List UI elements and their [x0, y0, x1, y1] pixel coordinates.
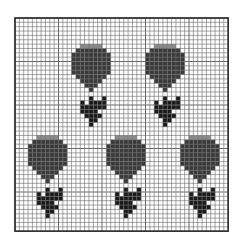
bloom-tip-stitch — [202, 135, 206, 139]
bloom-stitch — [141, 162, 145, 166]
stem-stitch — [93, 118, 97, 122]
bloom-stitch — [176, 53, 180, 57]
bloom-stitch — [93, 70, 97, 74]
bloom-stitch — [132, 149, 136, 153]
bloom-stitch — [215, 149, 219, 153]
bloom-stitch — [89, 79, 93, 83]
bloom-stitch — [137, 149, 141, 153]
stem-stitch — [80, 109, 84, 113]
bloom-tip-stitch — [45, 135, 49, 139]
bloom-tip-stitch — [119, 135, 123, 139]
stem-stitch — [37, 196, 41, 200]
bloom-stitch — [180, 149, 184, 153]
bloom-stitch — [28, 144, 32, 148]
bloom-stitch — [115, 166, 119, 170]
stem-stitch — [211, 192, 215, 196]
bloom-stitch — [167, 83, 171, 87]
bloom-stitch — [45, 166, 49, 170]
stem-stitch — [45, 214, 49, 218]
bloom-stitch — [111, 153, 115, 157]
bloom-stitch — [198, 170, 202, 174]
stem-stitch — [206, 192, 210, 196]
stem-stitch — [50, 201, 54, 205]
stem-stitch — [159, 105, 163, 109]
bloom-stitch — [115, 144, 119, 148]
bloom-stitch — [124, 170, 128, 174]
bloom-stitch — [176, 70, 180, 74]
bloom-tip-stitch — [189, 135, 193, 139]
bloom-stitch — [189, 162, 193, 166]
stem-stitch — [102, 96, 106, 100]
stem-stitch — [124, 188, 128, 192]
stem-stitch — [124, 201, 128, 205]
stem-stitch — [159, 114, 163, 118]
bloom-stitch — [102, 62, 106, 66]
bloom-stitch — [93, 57, 97, 61]
bloom-stitch — [50, 144, 54, 148]
bloom-stitch — [167, 66, 171, 70]
stem-stitch — [198, 201, 202, 205]
bloom-stitch — [211, 144, 215, 148]
bloom-stitch — [167, 75, 171, 79]
bloom-stitch — [45, 140, 49, 144]
stem-stitch — [41, 196, 45, 200]
bloom-stitch — [50, 153, 54, 157]
bloom-stitch — [106, 66, 110, 70]
stem-stitch — [163, 122, 167, 126]
bloom-stitch — [193, 153, 197, 157]
bloom-stitch — [37, 149, 41, 153]
bloom-stitch — [41, 175, 45, 179]
bloom-stitch — [76, 75, 80, 79]
bloom-stitch — [198, 175, 202, 179]
stem-stitch — [176, 105, 180, 109]
stem-stitch — [193, 196, 197, 200]
bloom-stitch — [150, 48, 154, 52]
bloom-stitch — [202, 162, 206, 166]
stem-stitch — [198, 214, 202, 218]
bloom-tip-stitch — [93, 44, 97, 48]
stem-stitch — [172, 101, 176, 105]
stem-stitch — [93, 105, 97, 109]
bloom-stitch — [80, 48, 84, 52]
bloom-stitch — [41, 166, 45, 170]
stem-stitch — [159, 109, 163, 113]
bloom-stitch — [28, 162, 32, 166]
stem-stitch — [211, 196, 215, 200]
bloom-stitch — [45, 149, 49, 153]
stem-stitch — [202, 205, 206, 209]
stem-stitch — [89, 101, 93, 105]
bloom-stitch — [89, 62, 93, 66]
bloom-stitch — [106, 144, 110, 148]
bloom-stitch — [41, 157, 45, 161]
bloom-tip-stitch — [37, 135, 41, 139]
stem-stitch — [128, 192, 132, 196]
stem-stitch — [172, 105, 176, 109]
bloom-stitch — [146, 66, 150, 70]
bloom-stitch — [185, 162, 189, 166]
bloom-stitch — [211, 162, 215, 166]
bloom-stitch — [193, 170, 197, 174]
bloom-stitch — [59, 166, 63, 170]
bloom-stitch — [37, 153, 41, 157]
bloom-stitch — [98, 79, 102, 83]
stem-stitch — [128, 201, 132, 205]
bloom-stitch — [128, 175, 132, 179]
stem-stitch — [189, 196, 193, 200]
bloom-stitch — [198, 140, 202, 144]
bloom-stitch — [172, 57, 176, 61]
bloom-stitch — [115, 157, 119, 161]
bloom-stitch — [154, 62, 158, 66]
bloom-stitch — [189, 140, 193, 144]
stem-stitch — [163, 101, 167, 105]
bloom-stitch — [98, 66, 102, 70]
bloom-tip-stitch — [154, 44, 158, 48]
bloom-stitch — [172, 62, 176, 66]
bloom-stitch — [128, 157, 132, 161]
bloom-tip-stitch — [167, 44, 171, 48]
bloom-stitch — [41, 162, 45, 166]
bloom-stitch — [93, 53, 97, 57]
bloom-stitch — [54, 153, 58, 157]
bloom-stitch — [189, 166, 193, 170]
bloom-stitch — [132, 170, 136, 174]
stem-stitch — [45, 209, 49, 213]
